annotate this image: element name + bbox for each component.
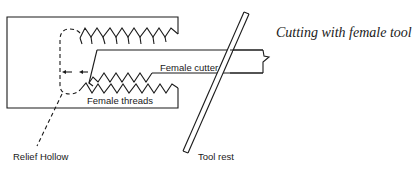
relief-hollow-outline: [60, 29, 80, 94]
relief-hollow-leader: [37, 94, 62, 146]
label-female-cutter: Female cutter: [160, 63, 218, 73]
label-relief-hollow: Relief Hollow: [13, 152, 68, 162]
direction-arrows: [62, 70, 88, 74]
top-threads: [80, 28, 178, 44]
label-female-threads: Female threads: [87, 96, 153, 106]
bottom-threads: [80, 83, 178, 93]
label-tool-rest: Tool rest: [198, 152, 234, 162]
tool-rest: [183, 12, 263, 153]
diagram-title: Cutting with female tool: [276, 26, 412, 40]
